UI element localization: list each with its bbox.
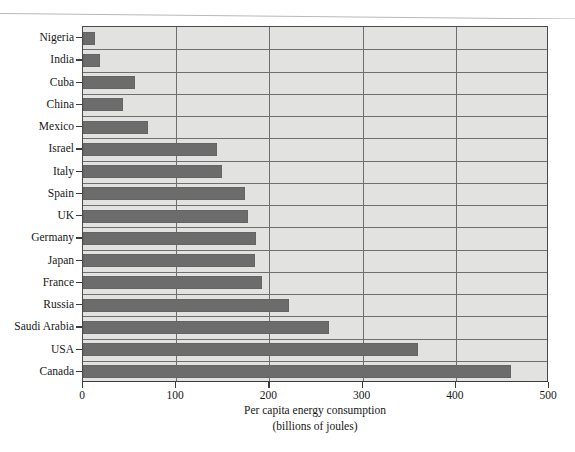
- y-axis-tick: [76, 37, 82, 38]
- horizontal-gridline: [83, 272, 547, 273]
- horizontal-gridline: [83, 294, 547, 295]
- category-label: Italy: [53, 160, 74, 182]
- bar: [83, 254, 255, 267]
- x-axis-tick: [82, 382, 83, 388]
- plot-area: [82, 26, 548, 382]
- category-label: Japan: [48, 249, 74, 271]
- y-axis-tick: [76, 148, 82, 149]
- y-axis-tick: [76, 371, 82, 372]
- horizontal-gridline: [83, 316, 547, 317]
- category-label: Nigeria: [40, 26, 74, 48]
- x-axis-tick-label: 200: [238, 389, 298, 401]
- horizontal-gridline: [83, 72, 547, 73]
- y-axis-tick: [76, 126, 82, 127]
- x-axis-tick-label: 100: [145, 389, 205, 401]
- bar: [83, 54, 100, 67]
- bar: [83, 365, 511, 378]
- x-axis-title-units: (billions of joules): [82, 420, 548, 432]
- y-axis-tick: [76, 193, 82, 194]
- bar: [83, 32, 95, 45]
- category-label: France: [43, 271, 74, 293]
- vertical-gridline: [363, 27, 364, 381]
- bar: [83, 76, 135, 89]
- category-label: China: [47, 93, 74, 115]
- y-axis-tick: [76, 82, 82, 83]
- bar: [83, 321, 329, 334]
- bar: [83, 98, 123, 111]
- horizontal-gridline: [83, 161, 547, 162]
- x-axis-tick-label: 300: [332, 389, 392, 401]
- x-axis-tick: [175, 382, 176, 388]
- x-axis-title: Per capita energy consumption: [82, 404, 548, 416]
- category-label: Cuba: [50, 71, 74, 93]
- bar: [83, 299, 289, 312]
- horizontal-gridline: [83, 205, 547, 206]
- horizontal-gridline: [83, 250, 547, 251]
- bar: [83, 143, 217, 156]
- y-axis-tick: [76, 104, 82, 105]
- category-label: Saudi Arabia: [14, 315, 74, 337]
- horizontal-gridline: [83, 94, 547, 95]
- y-axis-tick: [76, 237, 82, 238]
- bar-chart-figure: NigeriaIndiaCubaChinaMexicoIsraelItalySp…: [0, 0, 575, 452]
- bar: [83, 187, 245, 200]
- x-axis-tick: [455, 382, 456, 388]
- x-axis-tick-label: 0: [52, 389, 112, 401]
- bar: [83, 121, 148, 134]
- bar: [83, 165, 222, 178]
- y-axis-tick: [76, 282, 82, 283]
- category-label: USA: [51, 338, 74, 360]
- category-label: India: [50, 48, 74, 70]
- x-axis-tick-label: 500: [518, 389, 575, 401]
- y-axis-tick: [76, 59, 82, 60]
- category-label: Mexico: [39, 115, 74, 137]
- x-axis-tick: [548, 382, 549, 388]
- category-axis-labels: NigeriaIndiaCubaChinaMexicoIsraelItalySp…: [0, 26, 78, 382]
- x-axis-line: [82, 381, 548, 382]
- horizontal-gridline: [83, 49, 547, 50]
- category-label: Russia: [43, 293, 74, 315]
- bar: [83, 343, 418, 356]
- horizontal-gridline: [83, 138, 547, 139]
- category-label: UK: [57, 204, 74, 226]
- category-label: Spain: [48, 182, 74, 204]
- y-axis-tick: [76, 326, 82, 327]
- bar: [83, 232, 256, 245]
- vertical-gridline: [456, 27, 457, 381]
- x-axis-tick-label: 400: [425, 389, 485, 401]
- bar: [83, 210, 248, 223]
- y-axis-tick: [76, 260, 82, 261]
- category-label: Israel: [48, 137, 74, 159]
- y-axis-tick: [76, 215, 82, 216]
- horizontal-gridline: [83, 339, 547, 340]
- y-axis-tick: [76, 304, 82, 305]
- category-label: Canada: [40, 360, 74, 382]
- y-axis-tick: [76, 349, 82, 350]
- x-axis-tick: [268, 382, 269, 388]
- horizontal-gridline: [83, 183, 547, 184]
- horizontal-gridline: [83, 361, 547, 362]
- category-label: Germany: [31, 226, 74, 248]
- horizontal-gridline: [83, 116, 547, 117]
- horizontal-gridline: [83, 227, 547, 228]
- x-axis-tick: [362, 382, 363, 388]
- bar: [83, 276, 262, 289]
- y-axis-tick: [76, 171, 82, 172]
